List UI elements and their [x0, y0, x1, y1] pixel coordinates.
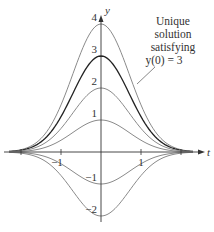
x-tick-label: −1	[51, 156, 63, 168]
t-axis-arrow-icon	[198, 150, 205, 155]
y-tick-label: 1	[92, 107, 98, 119]
y-tick-label: 3	[92, 43, 98, 55]
annotation-line-3: satisfying	[151, 41, 196, 54]
y-ticks: 4321−1−2	[85, 11, 97, 215]
annotation-line-2: solution	[154, 28, 191, 40]
y-tick-label: 2	[92, 75, 98, 87]
t-axis-label: t	[207, 146, 211, 158]
annotation-line-4: y(0) = 3	[145, 54, 182, 67]
y-tick-label: 4	[92, 11, 98, 23]
y-tick-label: −1	[85, 171, 97, 183]
y-tick-label: −2	[85, 203, 97, 215]
y-axis-arrow-icon	[99, 15, 104, 22]
solution-curves-plot: −11 4321−1−2 t y Unique solution satisfy…	[0, 0, 214, 232]
x-tick-label: 1	[138, 156, 144, 168]
y-axis-label: y	[104, 4, 110, 16]
annotation: Unique solution satisfying y(0) = 3	[137, 15, 196, 84]
annotation-line-1: Unique	[156, 15, 190, 28]
annotation-pointer	[137, 67, 155, 84]
